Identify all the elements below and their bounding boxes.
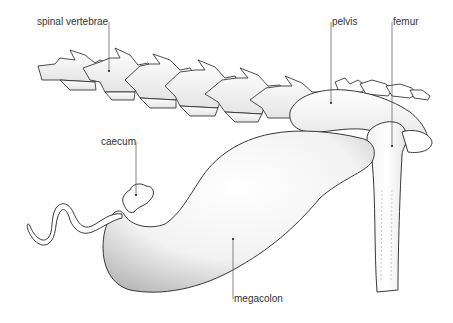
- megacolon: [103, 131, 374, 292]
- label-megacolon: megacolon: [234, 293, 283, 305]
- label-caecum: caecum: [101, 136, 136, 148]
- femur: [367, 122, 432, 292]
- caecum: [123, 184, 154, 213]
- label-spinal-vertebrae: spinal vertebrae: [37, 16, 108, 28]
- spinal-vertebrae: [38, 48, 328, 122]
- anatomy-diagram: spinal vertebrae pelvis femur caecum meg…: [0, 0, 453, 323]
- label-pelvis: pelvis: [332, 16, 358, 28]
- illustration: [0, 0, 453, 323]
- label-femur: femur: [393, 16, 419, 28]
